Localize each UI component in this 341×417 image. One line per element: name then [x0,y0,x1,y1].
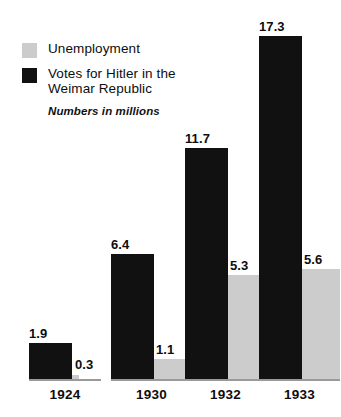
x-axis-label-1933: 1933 [259,387,340,402]
bar-value-label: 17.3 [259,19,285,34]
baseline [259,379,340,381]
baseline [185,379,266,381]
baseline [29,379,101,381]
bar-group-1930: 6.41.11930 [111,36,193,381]
bar-value-label: 0.3 [75,357,93,372]
x-axis-label-1930: 1930 [111,387,192,402]
bar-group-1924: 1.90.31924 [29,36,91,381]
bar-group-1933: 17.35.61933 [259,36,341,381]
bar-1924-votes: 1.9 [29,343,72,381]
bar-value-label: 5.3 [230,258,248,273]
bar-value-label: 5.6 [304,252,322,267]
bar-1933-votes: 17.3 [259,36,302,381]
bar-group-bars: 17.35.6 [259,36,340,381]
x-axis-label-1932: 1932 [185,387,266,402]
bar-value-label: 1.9 [29,326,47,341]
bar-1932-votes: 11.7 [185,148,228,381]
bar-value-label: 1.1 [156,342,174,357]
x-axis-label-1924: 1924 [29,387,101,402]
bar-group-1932: 11.75.31932 [185,36,267,381]
bar-1930-votes: 6.4 [111,254,154,381]
bar-1933-unemployment: 5.6 [302,269,340,381]
bar-group-bars: 6.41.1 [111,36,192,381]
bar-group-bars: 11.75.3 [185,36,266,381]
bar-value-label: 6.4 [111,237,129,252]
bar-group-bars: 1.90.3 [29,36,79,381]
bar-value-label: 11.7 [185,131,210,146]
baseline [111,379,192,381]
